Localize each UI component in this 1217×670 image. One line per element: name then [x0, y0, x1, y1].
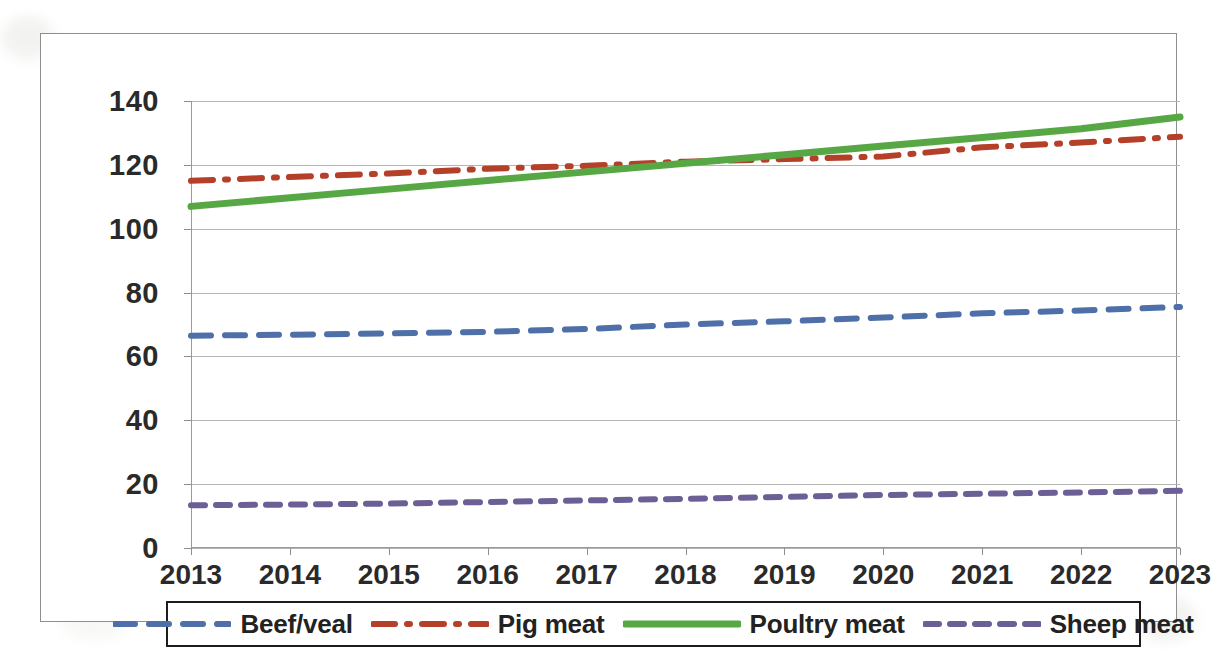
y-tick-label: 80	[39, 276, 159, 309]
series-line-beef-veal	[191, 307, 1180, 336]
y-tick-label: 60	[39, 340, 159, 373]
legend-entry-pig-meat[interactable]: Pig meat	[362, 609, 614, 640]
x-tick-label: 2019	[753, 559, 815, 591]
y-tick-label: 140	[39, 85, 159, 118]
x-tick-label: 2017	[555, 559, 617, 591]
y-tick-label: 120	[39, 148, 159, 181]
legend-label: Beef/veal	[240, 609, 352, 640]
x-tick-label: 2013	[160, 559, 222, 591]
x-tick-label: 2022	[1050, 559, 1112, 591]
x-tick-mark	[290, 548, 291, 555]
y-tick-label: 40	[39, 404, 159, 437]
x-tick-mark	[883, 548, 884, 555]
legend-swatch-icon	[923, 617, 1041, 631]
chart-figure-frame: 020406080100120140 201320142015201620172…	[40, 33, 1177, 622]
x-tick-mark	[587, 548, 588, 555]
legend-label: Poultry meat	[750, 609, 905, 640]
y-tick-label: 100	[39, 212, 159, 245]
x-tick-mark	[1081, 548, 1082, 555]
x-tick-mark	[686, 548, 687, 555]
y-tick-mark	[184, 165, 191, 166]
x-tick-label: 2016	[457, 559, 519, 591]
x-tick-mark	[982, 548, 983, 555]
series-line-pig-meat	[191, 137, 1180, 181]
y-tick-mark	[184, 101, 191, 102]
x-tick-mark	[784, 548, 785, 555]
series-lines	[191, 101, 1180, 548]
legend-swatch-icon	[371, 617, 489, 631]
plot-area: 020406080100120140 201320142015201620172…	[191, 101, 1180, 548]
y-tick-mark	[184, 229, 191, 230]
x-tick-label: 2018	[654, 559, 716, 591]
y-tick-mark	[184, 484, 191, 485]
chart-legend: Beef/vealPig meatPoultry meatSheep meat	[166, 601, 1141, 647]
x-tick-mark	[191, 548, 192, 555]
legend-swatch-icon	[113, 617, 231, 631]
x-tick-label: 2015	[358, 559, 420, 591]
x-tick-mark	[1180, 548, 1181, 555]
legend-label: Sheep meat	[1050, 609, 1194, 640]
y-tick-mark	[184, 293, 191, 294]
x-tick-label: 2014	[259, 559, 321, 591]
legend-entry-beef-veal[interactable]: Beef/veal	[104, 609, 361, 640]
x-tick-mark	[389, 548, 390, 555]
y-tick-label: 20	[39, 468, 159, 501]
legend-entry-sheep-meat[interactable]: Sheep meat	[914, 609, 1203, 640]
x-tick-mark	[488, 548, 489, 555]
y-tick-label: 0	[39, 532, 159, 565]
y-tick-mark	[184, 548, 191, 549]
legend-swatch-icon	[623, 617, 741, 631]
legend-label: Pig meat	[498, 609, 605, 640]
y-tick-mark	[184, 356, 191, 357]
x-tick-label: 2021	[951, 559, 1013, 591]
x-tick-label: 2023	[1149, 559, 1211, 591]
legend-entry-poultry-meat[interactable]: Poultry meat	[614, 609, 914, 640]
series-line-poultry-meat	[191, 117, 1180, 206]
series-line-sheep-meat	[191, 491, 1180, 505]
y-tick-mark	[184, 420, 191, 421]
x-tick-label: 2020	[852, 559, 914, 591]
